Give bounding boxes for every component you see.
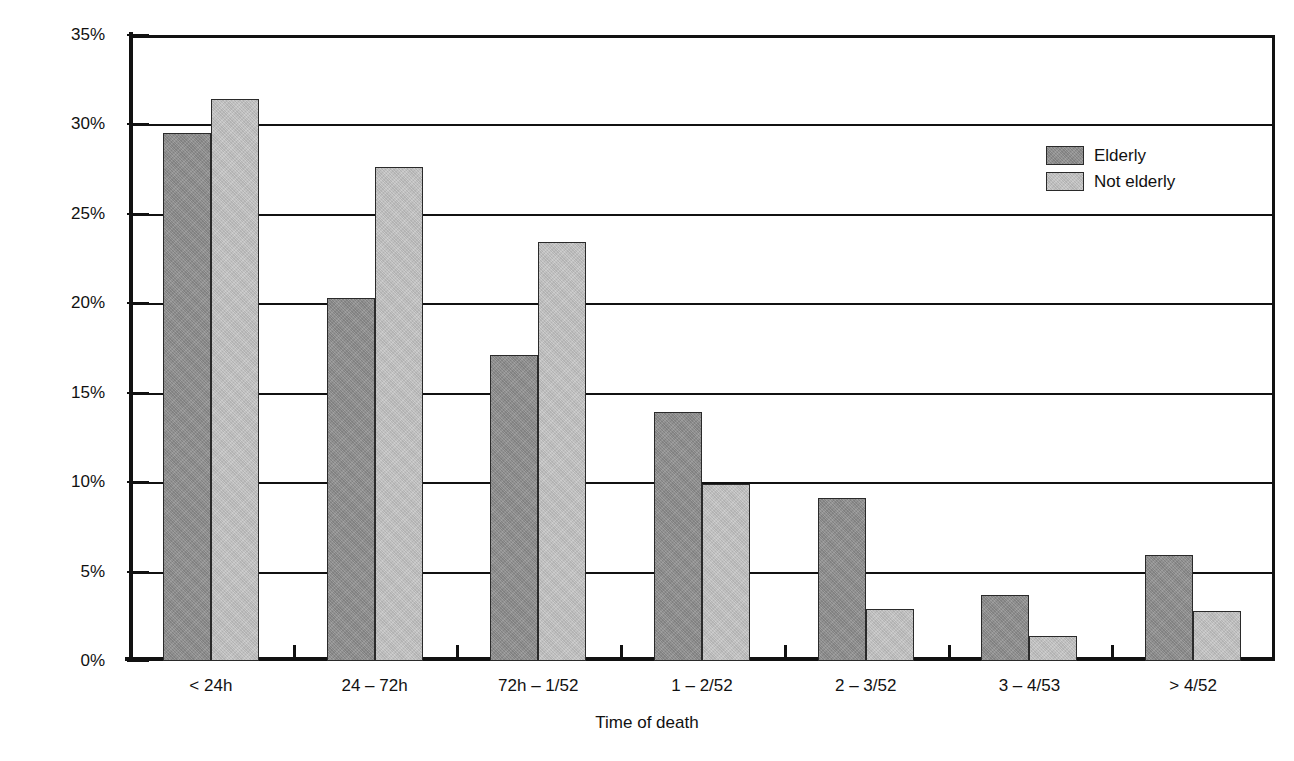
y-axis-ticks: 0%5%10%15%20%25%30%35% [20,0,105,761]
bar-elderly [654,412,702,661]
legend-item: Elderly [1046,143,1246,167]
bar-not-elderly [375,167,423,661]
bar-not-elderly [211,99,259,661]
x-tick-label: > 4/52 [1169,676,1217,696]
bars-layer [129,35,1275,661]
bar-not-elderly [1029,636,1077,661]
bar-elderly [818,498,866,661]
bar-elderly [163,133,211,661]
x-tick-mark [784,645,787,661]
y-tick-label: 15% [25,384,105,401]
bar-elderly [1145,555,1193,661]
bar-chart-figure: % of deaths in this time period 0%5%10%1… [0,0,1294,761]
bar-not-elderly [866,609,914,661]
y-tick-label: 35% [25,26,105,43]
y-tick-label: 10% [25,473,105,490]
x-tick-mark [293,645,296,661]
x-tick-mark [620,645,623,661]
x-tick-label: 3 – 4/53 [999,676,1060,696]
bar-not-elderly [538,242,586,661]
x-tick-label: 24 – 72h [341,676,407,696]
bar-elderly [490,355,538,661]
x-tick-mark [1111,645,1114,661]
bar-not-elderly [1193,611,1241,661]
legend-swatch-not-elderly [1046,172,1084,191]
x-tick-mark [948,645,951,661]
legend-swatch-elderly [1046,146,1084,165]
x-tick-mark [456,645,459,661]
bar-elderly [981,595,1029,661]
y-tick-label: 0% [25,652,105,669]
chart-legend: ElderlyNot elderly [1046,143,1246,195]
x-tick-label: 72h – 1/52 [498,676,578,696]
x-axis-title: Time of death [0,713,1294,733]
y-tick-label: 30% [25,115,105,132]
y-tick-label: 20% [25,294,105,311]
plot-area [129,35,1275,661]
y-tick-label: 25% [25,205,105,222]
bar-elderly [327,298,375,661]
x-axis-tick-labels: < 24h24 – 72h72h – 1/521 – 2/522 – 3/523… [129,676,1275,706]
x-tick-label: 1 – 2/52 [671,676,732,696]
y-tick-label: 5% [25,563,105,580]
x-tick-label: 2 – 3/52 [835,676,896,696]
legend-label: Elderly [1094,146,1146,165]
bar-not-elderly [702,484,750,661]
legend-label: Not elderly [1094,172,1175,191]
x-tick-label: < 24h [189,676,232,696]
legend-item: Not elderly [1046,169,1246,193]
